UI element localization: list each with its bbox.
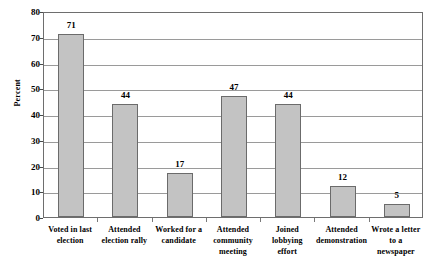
- x-axis-category-label: Joinedlobbyingeffort: [258, 224, 316, 257]
- y-axis-tick-mark: [39, 167, 43, 168]
- y-axis-tick-mark: [39, 89, 43, 90]
- y-axis-tick-label: 30: [22, 136, 40, 145]
- x-axis-category-label-line: Attended: [95, 224, 153, 235]
- bar-value-label: 47: [229, 83, 238, 92]
- bar[interactable]: [167, 173, 193, 217]
- bar[interactable]: [58, 34, 84, 217]
- x-axis-category-label-line: lobbying: [258, 235, 316, 246]
- x-axis-category-label-line: effort: [258, 246, 316, 257]
- x-axis-category-label-line: Voted in last: [41, 224, 99, 235]
- x-axis-category-labels: Voted in lastelectionAttendedelection ra…: [43, 224, 423, 270]
- y-axis-tick-mark: [39, 38, 43, 39]
- x-axis-category-label-line: community: [204, 235, 262, 246]
- y-axis-tick-labels: 01020304050607080: [22, 12, 40, 218]
- x-axis-tick-mark: [260, 218, 261, 222]
- x-axis-tick-mark: [206, 218, 207, 222]
- x-axis-category-label-line: newspaper: [367, 246, 425, 257]
- x-axis-category-label-line: meeting: [204, 246, 262, 257]
- x-axis-category-label-line: Attended: [204, 224, 262, 235]
- x-axis-category-label-line: candidate: [150, 235, 208, 246]
- y-axis-tick-mark: [39, 141, 43, 142]
- bar-group[interactable]: 44: [261, 13, 315, 217]
- bar-group[interactable]: 44: [98, 13, 152, 217]
- x-axis-category-label: Voted in lastelection: [41, 224, 99, 246]
- x-axis-tick-mark: [369, 218, 370, 222]
- x-axis-category-label: Wrote a letterto anewspaper: [367, 224, 425, 257]
- bar-value-label: 17: [175, 160, 184, 169]
- bar-chart-figure: Percent 01020304050607080 7144174744125 …: [0, 0, 433, 274]
- bar[interactable]: [112, 104, 138, 217]
- bars-layer: 7144174744125: [44, 13, 422, 217]
- x-axis-tick-marks: [43, 218, 423, 222]
- x-axis-category-label-line: to a: [367, 235, 425, 246]
- y-axis-tick-mark: [39, 192, 43, 193]
- bar[interactable]: [221, 96, 247, 217]
- bar-value-label: 44: [284, 91, 293, 100]
- bar-value-label: 12: [338, 173, 347, 182]
- y-axis-tick-label: 10: [22, 188, 40, 197]
- y-axis-tick-label: 60: [22, 59, 40, 68]
- y-axis-tick-label: 20: [22, 162, 40, 171]
- y-axis-tick-mark: [39, 12, 43, 13]
- x-axis-tick-mark: [314, 218, 315, 222]
- x-axis-tick-mark: [152, 218, 153, 222]
- bar-value-label: 44: [121, 91, 130, 100]
- bar-group[interactable]: 5: [370, 13, 424, 217]
- x-axis-category-label-line: Attended: [313, 224, 371, 235]
- y-axis-tick-label: 50: [22, 85, 40, 94]
- x-axis-category-label-line: Joined: [258, 224, 316, 235]
- x-axis-category-label-line: election rally: [95, 235, 153, 246]
- y-axis-tick-mark: [39, 115, 43, 116]
- bar-value-label: 71: [67, 21, 76, 30]
- y-axis-title: Percent: [13, 93, 22, 107]
- x-axis-category-label-line: demonstration: [313, 235, 371, 246]
- bar[interactable]: [330, 186, 356, 217]
- bar-group[interactable]: 17: [153, 13, 207, 217]
- x-axis-category-label: Attendedcommunitymeeting: [204, 224, 262, 257]
- x-axis-category-label-line: Wrote a letter: [367, 224, 425, 235]
- x-axis-category-label: Attendeddemonstration: [313, 224, 371, 246]
- bar-value-label: 5: [395, 191, 400, 200]
- y-axis-tick-label: 80: [22, 8, 40, 17]
- bar[interactable]: [275, 104, 301, 217]
- plot-area: 7144174744125: [43, 12, 423, 218]
- x-axis-category-label-line: election: [41, 235, 99, 246]
- bar-group[interactable]: 12: [315, 13, 369, 217]
- y-axis-tick-label: 0: [22, 214, 40, 223]
- y-axis-tick-label: 40: [22, 111, 40, 120]
- bar-group[interactable]: 71: [44, 13, 98, 217]
- x-axis-category-label: Worked for acandidate: [150, 224, 208, 246]
- y-axis-tick-mark: [39, 218, 43, 219]
- y-axis-tick-label: 70: [22, 33, 40, 42]
- x-axis-category-label-line: Worked for a: [150, 224, 208, 235]
- bar[interactable]: [384, 204, 410, 217]
- y-axis-tick-mark: [39, 64, 43, 65]
- x-axis-category-label: Attendedelection rally: [95, 224, 153, 246]
- x-axis-tick-mark: [97, 218, 98, 222]
- bar-group[interactable]: 47: [207, 13, 261, 217]
